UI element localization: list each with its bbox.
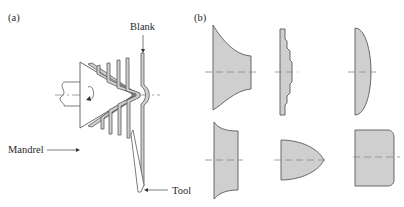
tool-leader-arrow <box>144 188 168 192</box>
mandrel-callout-label: Mandrel <box>8 144 44 155</box>
shape-shallow-dome <box>348 28 376 115</box>
blank-sheet <box>141 53 149 186</box>
shape-parabolic-nose <box>274 140 326 180</box>
mandrel-leader-arrow <box>47 148 80 152</box>
panel-a: (a) <box>8 12 191 196</box>
shape-round-corner-cup <box>353 130 400 186</box>
shape-flared-bell <box>205 25 258 110</box>
shape-stepped-disc <box>275 29 298 115</box>
spinning-process-figure: (a) <box>0 0 404 207</box>
shape-concave-flange-cylinder <box>205 122 243 199</box>
blank-leader-arrow <box>141 35 145 53</box>
tool-callout-label: Tool <box>172 185 191 196</box>
panel-a-label: (a) <box>8 12 20 24</box>
panel-b: (b) <box>194 12 400 199</box>
shaft <box>60 82 80 106</box>
panel-b-label: (b) <box>194 12 207 24</box>
blank-callout-label: Blank <box>130 21 156 32</box>
